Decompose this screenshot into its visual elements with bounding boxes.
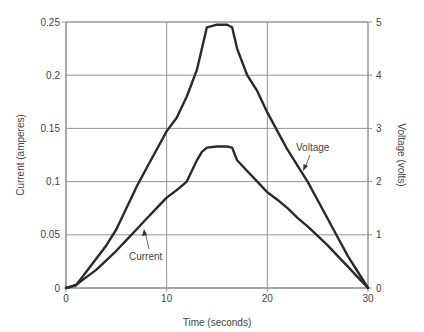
y-tick-label: 0.2 xyxy=(46,70,60,81)
y2-tick-label: 4 xyxy=(376,70,382,81)
y2-tick-label: 0 xyxy=(376,283,382,294)
series-current-line xyxy=(66,147,368,289)
y2-tick-label: 5 xyxy=(376,17,382,28)
voltage-annotation: Voltage xyxy=(296,142,330,171)
y-tick-label: 0.1 xyxy=(46,176,60,187)
current-annotation-label: Current xyxy=(129,251,163,262)
y2-axis-label: Voltage (volts) xyxy=(396,123,407,186)
grid-lines xyxy=(66,22,372,292)
y2-tick-label: 2 xyxy=(376,176,382,187)
y2-tick-label: 1 xyxy=(376,229,382,240)
y-tick-label: 0.15 xyxy=(41,123,61,134)
x-tick-label: 30 xyxy=(362,293,374,304)
x-axis-ticks: 0102030 xyxy=(63,293,374,304)
y-axis-label: Current (amperes) xyxy=(15,114,26,196)
x-axis-label: Time (seconds) xyxy=(183,317,252,328)
x-tick-label: 0 xyxy=(63,293,69,304)
voltage-arrowhead-icon xyxy=(303,164,308,171)
y-tick-label: 0.05 xyxy=(41,229,61,240)
x-tick-label: 20 xyxy=(262,293,274,304)
y2-tick-label: 3 xyxy=(376,123,382,134)
axes xyxy=(62,22,368,288)
current-annotation: Current xyxy=(129,229,163,262)
data-series xyxy=(66,25,368,288)
y2-axis-ticks: 012345 xyxy=(376,17,382,294)
y-tick-label: 0 xyxy=(54,283,60,294)
series-voltage-line xyxy=(66,25,368,288)
voltage-annotation-label: Voltage xyxy=(296,142,330,153)
line-chart: 0102030 00.050.10.150.20.25 012345 Time … xyxy=(0,0,424,332)
current-arrowhead-icon xyxy=(142,229,147,236)
y-tick-label: 0.25 xyxy=(41,17,61,28)
x-tick-label: 10 xyxy=(161,293,173,304)
y-axis-ticks: 00.050.10.150.20.25 xyxy=(41,17,61,294)
